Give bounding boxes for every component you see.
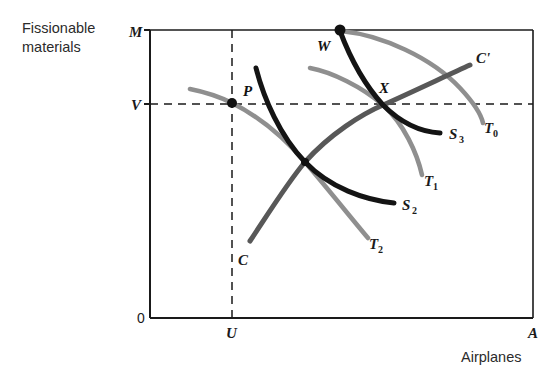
curve-T2 bbox=[190, 89, 368, 238]
point-marker-crossing-lower bbox=[301, 158, 309, 166]
point-label-P: P bbox=[243, 83, 253, 99]
point-marker-W bbox=[335, 25, 346, 36]
axis-label-origin: 0 bbox=[137, 310, 145, 326]
curve-label-T1-sub: 1 bbox=[433, 181, 438, 192]
axis-box bbox=[144, 30, 533, 318]
curve-label-T0-sub: 0 bbox=[493, 128, 498, 139]
curve-label-S2: S 2 bbox=[402, 197, 417, 216]
curve-label-S3-sub: 3 bbox=[459, 134, 464, 145]
curve-label-S3-base: S bbox=[449, 126, 457, 142]
curve-label-C-prime: C' bbox=[476, 50, 490, 66]
curve-label-S2-base: S bbox=[402, 197, 410, 213]
axis-label-M: M bbox=[128, 24, 143, 40]
curve-label-T2: T 2 bbox=[369, 236, 383, 255]
axis-label-U: U bbox=[226, 325, 238, 341]
point-label-X: X bbox=[378, 80, 390, 96]
curve-label-T1: T 1 bbox=[424, 173, 438, 192]
curve-label-T2-sub: 2 bbox=[378, 244, 383, 255]
curve-C-Cprime bbox=[250, 65, 470, 241]
point-label-W: W bbox=[317, 38, 332, 54]
dark-gray-curve-group bbox=[250, 65, 470, 241]
x-axis-title: Airplanes bbox=[461, 349, 521, 365]
curve-label-S3: S 3 bbox=[449, 126, 464, 145]
axis-label-A: A bbox=[527, 325, 538, 341]
curve-label-T0: T 0 bbox=[484, 120, 498, 139]
curve-label-S2-sub: 2 bbox=[412, 205, 417, 216]
diagram-figure: M V 0 U A P W X S 3 S 2 T 0 T 1 T 2 C bbox=[0, 0, 557, 376]
black-curve-group bbox=[256, 31, 440, 203]
curve-label-C: C bbox=[238, 252, 249, 268]
y-axis-title-line1: Fissionable bbox=[22, 20, 95, 36]
point-marker-P bbox=[227, 98, 237, 108]
y-axis-title-line2: materials bbox=[22, 39, 81, 55]
axis-label-V: V bbox=[131, 97, 143, 113]
guide-lines bbox=[150, 30, 533, 318]
plot-canvas: M V 0 U A P W X S 3 S 2 T 0 T 1 T 2 C bbox=[0, 0, 557, 376]
